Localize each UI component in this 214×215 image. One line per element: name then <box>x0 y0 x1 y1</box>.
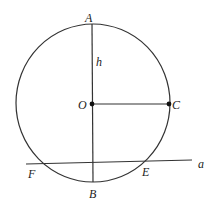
geometry-diagram: A h O C F E B a <box>0 0 214 215</box>
label-c: C <box>172 98 181 112</box>
label-e: E <box>141 165 150 179</box>
line-a <box>26 160 192 164</box>
point-o <box>90 102 95 107</box>
label-f: F <box>27 167 36 181</box>
point-c <box>167 102 172 107</box>
label-a-point: A <box>84 11 93 25</box>
label-b: B <box>89 187 97 201</box>
label-o: O <box>78 98 87 112</box>
label-line-a: a <box>198 157 204 171</box>
label-h: h <box>96 55 102 69</box>
